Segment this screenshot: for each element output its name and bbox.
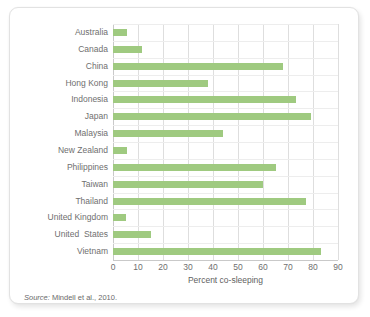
category-label: Thailand xyxy=(10,193,108,210)
bar-row xyxy=(113,226,338,243)
x-tick-label: 0 xyxy=(101,262,125,272)
bar xyxy=(113,214,126,221)
bar-row xyxy=(113,108,338,125)
bar-row xyxy=(113,75,338,92)
bar xyxy=(113,80,208,87)
bar xyxy=(113,198,306,205)
gridline-vertical xyxy=(338,24,339,260)
x-axis-tick-labels: 0102030405060708090 xyxy=(113,262,338,274)
x-tick-label: 40 xyxy=(201,262,225,272)
category-label: Malaysia xyxy=(10,125,108,142)
source-note: Source: Mindell et al., 2010. xyxy=(24,293,117,302)
bar-row xyxy=(113,243,338,260)
x-tick-label: 20 xyxy=(151,262,175,272)
bar xyxy=(113,181,263,188)
x-axis-title: Percent co-sleeping xyxy=(113,275,338,285)
category-label: Indonesia xyxy=(10,91,108,108)
bar-row xyxy=(113,142,338,159)
bar xyxy=(113,63,283,70)
plot-area xyxy=(113,24,338,260)
figure-card: AustraliaCanadaChinaHong KongIndonesiaJa… xyxy=(9,7,359,304)
bar-row xyxy=(113,58,338,75)
x-tick-label: 50 xyxy=(226,262,250,272)
category-label: Taiwan xyxy=(10,176,108,193)
bar-row xyxy=(113,176,338,193)
bar-chart: AustraliaCanadaChinaHong KongIndonesiaJa… xyxy=(10,8,360,263)
bar xyxy=(113,46,142,53)
category-label: China xyxy=(10,58,108,75)
x-tick-label: 70 xyxy=(276,262,300,272)
category-label: Philippines xyxy=(10,159,108,176)
bar xyxy=(113,231,151,238)
bar xyxy=(113,147,127,154)
bar-row xyxy=(113,159,338,176)
x-tick-label: 90 xyxy=(326,262,350,272)
gridline-horizontal xyxy=(113,260,338,261)
x-tick-label: 30 xyxy=(176,262,200,272)
x-tick-label: 10 xyxy=(126,262,150,272)
bar-row xyxy=(113,41,338,58)
bar xyxy=(113,96,296,103)
x-tick-label: 80 xyxy=(301,262,325,272)
category-label: Japan xyxy=(10,108,108,125)
bar xyxy=(113,164,276,171)
category-label: United States xyxy=(10,226,108,243)
category-label: United Kingdom xyxy=(10,209,108,226)
source-label: Source: xyxy=(24,293,50,302)
x-tick-label: 60 xyxy=(251,262,275,272)
bar-row xyxy=(113,125,338,142)
bar xyxy=(113,29,127,36)
category-label: New Zealand xyxy=(10,142,108,159)
category-axis-labels: AustraliaCanadaChinaHong KongIndonesiaJa… xyxy=(10,24,108,260)
bar xyxy=(113,130,223,137)
category-label: Canada xyxy=(10,41,108,58)
bar-row xyxy=(113,193,338,210)
source-citation: Mindell et al., 2010. xyxy=(50,293,117,302)
category-label: Vietnam xyxy=(10,243,108,260)
bar-row xyxy=(113,91,338,108)
bar-row xyxy=(113,209,338,226)
category-label: Hong Kong xyxy=(10,75,108,92)
bar-row xyxy=(113,24,338,41)
bar xyxy=(113,113,311,120)
bar xyxy=(113,248,321,255)
category-label: Australia xyxy=(10,24,108,41)
